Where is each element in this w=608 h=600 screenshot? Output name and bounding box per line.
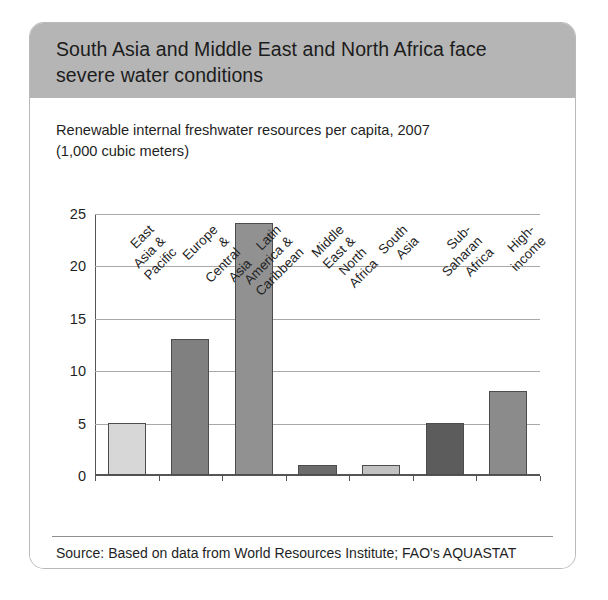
x-axis-tick-mark <box>540 476 541 481</box>
x-axis-tick-label: South Asia <box>376 222 423 269</box>
x-axis-tick-mark <box>95 476 96 481</box>
y-axis-tick-label: 15 <box>70 311 86 327</box>
x-axis-tick-label: Sub-Saharan Africa <box>428 222 497 291</box>
y-axis-tick-label: 25 <box>70 206 86 222</box>
gridline <box>95 214 540 215</box>
x-axis-tick-mark <box>476 476 477 481</box>
x-axis-tick-label: East Asia & Pacific <box>118 222 180 284</box>
gridline <box>95 371 540 372</box>
figure-header-band: South Asia and Middle East and North Afr… <box>30 23 575 98</box>
source-divider <box>52 536 553 537</box>
x-axis-tick-mark <box>286 476 287 481</box>
chart-plot-area: 0510152025 East Asia & PacificEurope & C… <box>95 214 540 476</box>
y-axis-tick-label: 10 <box>70 363 86 379</box>
figure-card: South Asia and Middle East and North Afr… <box>30 23 575 568</box>
bar <box>426 423 464 475</box>
x-axis-tick-label: Middle East & North Africa <box>309 222 382 295</box>
y-axis-line <box>95 214 96 476</box>
bar <box>171 339 209 475</box>
chart-subtitle: Renewable internal freshwater resources … <box>56 120 430 162</box>
chart-source: Source: Based on data from World Resourc… <box>56 545 516 561</box>
bar <box>489 391 527 475</box>
x-axis-tick-mark <box>349 476 350 481</box>
figure-title: South Asia and Middle East and North Afr… <box>56 36 551 88</box>
y-axis-tick-label: 5 <box>78 416 86 432</box>
y-axis-tick-label: 0 <box>78 468 86 484</box>
y-axis-tick-label: 20 <box>70 258 86 274</box>
bar <box>108 423 146 475</box>
figure-body: Renewable internal freshwater resources … <box>30 98 575 568</box>
gridline <box>95 319 540 320</box>
x-axis-tick-mark <box>159 476 160 481</box>
x-axis-tick-mark <box>413 476 414 481</box>
bar <box>362 465 400 475</box>
gridline <box>95 424 540 425</box>
x-axis-tick-mark <box>222 476 223 481</box>
bar <box>298 465 336 475</box>
